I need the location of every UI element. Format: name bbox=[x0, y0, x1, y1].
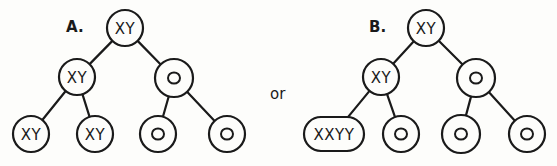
cell-lineage-diagram: XYXYOXYXYOOXYXYOXXYYOOO A. B. or bbox=[0, 0, 557, 166]
or-connector-label: or bbox=[270, 85, 286, 103]
edge-a-l-to-a-lr bbox=[82, 94, 89, 117]
edge-a-r-to-a-rl bbox=[163, 96, 169, 116]
panel-label-a: A. bbox=[66, 18, 84, 36]
node-circle-shape bbox=[140, 116, 176, 152]
node-circle-shape bbox=[509, 116, 545, 152]
tree-node-b-r: O bbox=[457, 59, 495, 97]
node-label: XY bbox=[115, 20, 136, 38]
panel-label-b: B. bbox=[369, 18, 386, 36]
tree-node-b-ll: XXYY bbox=[304, 117, 364, 151]
node-label: XY bbox=[416, 20, 437, 38]
edge-a-r-to-a-rr bbox=[187, 92, 215, 121]
tree-node-a-rr: O bbox=[209, 116, 245, 152]
tree-node-a-root: XY bbox=[107, 10, 143, 46]
edge-a-l-to-a-ll bbox=[42, 91, 65, 120]
node-circle-shape bbox=[457, 59, 495, 97]
tree-node-a-l: XY bbox=[59, 59, 95, 95]
edge-b-r-to-b-rl bbox=[466, 96, 471, 115]
node-label: XY bbox=[85, 126, 106, 144]
node-label: XXYY bbox=[314, 126, 355, 144]
tree-node-b-rl: O bbox=[442, 115, 480, 153]
node-label: XY bbox=[67, 69, 88, 87]
tree-node-a-lr: XY bbox=[77, 116, 113, 152]
edge-a-root-to-a-r bbox=[138, 41, 161, 65]
edge-b-root-to-b-l bbox=[393, 41, 414, 63]
node-circle-shape bbox=[442, 115, 480, 153]
tree-node-a-rl: O bbox=[140, 116, 176, 152]
edges-layer bbox=[42, 41, 515, 121]
edge-b-root-to-b-r bbox=[439, 41, 463, 65]
tree-node-b-l: XY bbox=[363, 59, 399, 95]
node-circle-shape bbox=[209, 116, 245, 152]
node-circle-shape bbox=[155, 59, 193, 97]
tree-node-b-lr: O bbox=[383, 116, 419, 152]
tree-node-b-root: XY bbox=[408, 10, 444, 46]
tree-node-a-r: O bbox=[155, 59, 193, 97]
edge-b-r-to-b-rr bbox=[489, 92, 515, 121]
tree-node-a-ll: XY bbox=[13, 116, 49, 152]
node-label: XY bbox=[21, 126, 42, 144]
edge-a-root-to-a-l bbox=[90, 41, 113, 64]
edge-b-l-to-b-lr bbox=[387, 94, 395, 117]
tree-node-b-rr: O bbox=[509, 116, 545, 152]
node-circle-shape bbox=[383, 116, 419, 152]
nodes-layer: XYXYOXYXYOOXYXYOXXYYOOO bbox=[13, 10, 545, 153]
edge-b-l-to-b-ll bbox=[347, 91, 370, 119]
node-label: XY bbox=[371, 69, 392, 87]
